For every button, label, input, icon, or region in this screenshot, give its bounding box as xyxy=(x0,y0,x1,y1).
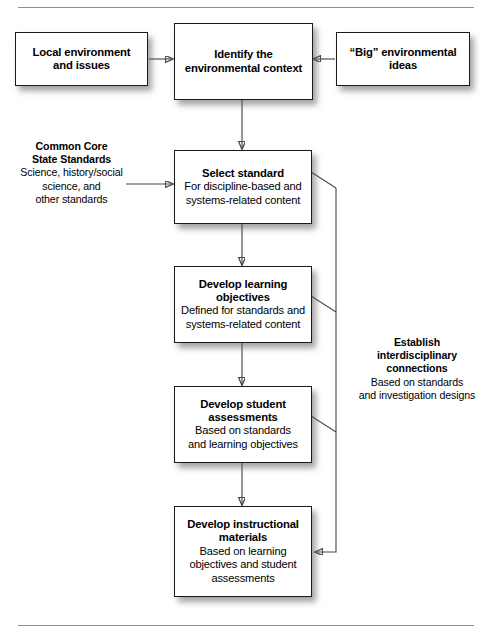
node-identify-context-title-2: environmental context xyxy=(185,62,302,75)
node-develop-objectives-sub-1: Defined for standards and xyxy=(181,304,305,318)
node-local-environment[interactable]: Local environment and issues xyxy=(15,32,148,86)
connector-select-to-bus xyxy=(311,172,336,188)
connector-objectives-to-bus xyxy=(311,296,336,312)
node-develop-materials-sub-2: objectives and student xyxy=(189,558,296,572)
annotation-interdisciplinary-sub-2: and investigation designs xyxy=(347,389,487,402)
diagram-canvas: Local environment and issues Identify th… xyxy=(0,0,491,639)
node-develop-assessments[interactable]: Develop student assessments Based on sta… xyxy=(174,386,312,463)
node-select-standard-sub-1: For discipline-based and xyxy=(184,180,301,194)
node-identify-context[interactable]: Identify the environmental context xyxy=(174,23,313,100)
node-develop-assessments-title-2: assessments xyxy=(208,411,277,424)
node-develop-objectives[interactable]: Develop learning objectives Defined for … xyxy=(174,266,312,343)
node-big-ideas-title-2: ideas xyxy=(389,59,417,72)
node-big-ideas[interactable]: “Big” environmental ideas xyxy=(336,32,470,86)
node-develop-objectives-title-2: objectives xyxy=(216,291,270,304)
connector-assessments-to-bus xyxy=(311,416,336,432)
node-develop-materials-sub-3: assessments xyxy=(211,572,274,586)
node-develop-assessments-sub-1: Based on standards xyxy=(195,424,291,438)
annotation-common-core-sub-1: Science, history/social xyxy=(14,166,129,179)
node-local-environment-title-2: and issues xyxy=(53,59,110,72)
node-develop-objectives-sub-2: systems-related content xyxy=(186,318,300,332)
node-develop-assessments-sub-2: and learning objectives xyxy=(188,438,298,452)
annotation-interdisciplinary-sub-1: Based on standards xyxy=(347,376,487,389)
node-develop-materials-title-1: Develop instructional xyxy=(187,518,299,531)
node-select-standard-sub-2: systems-related content xyxy=(186,194,300,208)
node-develop-materials-title-2: materials xyxy=(219,531,267,544)
node-big-ideas-title-1: “Big” environmental xyxy=(350,46,457,59)
connector-bus-to-materials xyxy=(315,188,336,552)
node-develop-objectives-title-1: Develop learning xyxy=(199,278,288,291)
node-develop-materials[interactable]: Develop instructional materials Based on… xyxy=(174,506,312,597)
node-select-standard[interactable]: Select standard For discipline-based and… xyxy=(174,150,312,224)
annotation-interdisciplinary-title-1: Establish xyxy=(347,336,487,349)
annotation-common-core-sub-2: science, and xyxy=(14,180,129,193)
annotation-common-core-title-1: Common Core xyxy=(14,140,129,153)
node-develop-materials-sub-1: Based on learning xyxy=(200,545,287,559)
node-local-environment-title: Local environment xyxy=(33,46,131,59)
node-develop-assessments-title-1: Develop student xyxy=(200,398,286,411)
annotation-interdisciplinary: Establish interdisciplinary connections … xyxy=(347,336,487,402)
annotation-common-core-title-2: State Standards xyxy=(14,153,129,166)
annotation-interdisciplinary-title-3: connections xyxy=(347,362,487,375)
node-select-standard-title: Select standard xyxy=(202,167,284,180)
annotation-interdisciplinary-title-2: interdisciplinary xyxy=(347,349,487,362)
annotation-common-core: Common Core State Standards Science, his… xyxy=(14,140,129,207)
node-identify-context-title-1: Identify the xyxy=(214,48,272,61)
annotation-common-core-sub-3: other standards xyxy=(14,193,129,206)
